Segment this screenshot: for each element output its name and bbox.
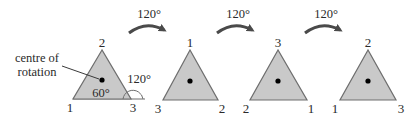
curved-arrow-icon [217,26,252,33]
triangle-1: 2 1 3 60° 120° centre of rotation [15,35,151,115]
vertex-label-top: 2 [99,35,106,50]
arrow-label: 120° [137,7,161,21]
centre-label-line2: rotation [18,65,58,79]
arrow-label: 120° [314,7,338,21]
rotation-arrow-3: 120° [305,7,340,33]
interior-angle-label: 60° [92,86,110,100]
triangle-2: 1 3 2 [155,35,226,116]
triangle-shape [163,50,218,100]
vertex-label-top: 2 [365,35,372,50]
triangle-3: 3 2 1 [243,35,315,116]
triangle-shape [340,50,396,100]
vertex-label-bottom-left: 3 [155,101,162,116]
arrow-label: 120° [226,7,250,21]
centre-label-line1: centre of [15,51,60,65]
vertex-label-bottom-right: 3 [398,101,405,116]
exterior-angle-label: 120° [127,72,151,86]
vertex-label-bottom-right: 1 [308,101,315,116]
vertex-label-bottom-left: 1 [332,101,339,116]
centre-dot [275,78,280,83]
centre-dot [365,78,370,83]
vertex-label-top: 1 [187,35,194,50]
centre-dot [187,78,192,83]
triangle-4: 2 1 3 [332,35,405,116]
vertex-label-top: 3 [275,35,282,50]
vertex-label-bottom-right: 3 [130,100,137,115]
curved-arrow-icon [129,26,164,33]
rotation-arrow-2: 120° [217,7,252,33]
centre-dot [99,77,104,82]
rotation-diagram: 2 1 3 60° 120° centre of rotation 120° 1… [0,0,411,124]
vertex-label-bottom-left: 2 [243,101,250,116]
curved-arrow-icon [305,26,340,33]
triangle-shape [250,50,307,100]
rotation-arrow-1: 120° [129,7,164,33]
vertex-label-bottom-left: 1 [67,100,74,115]
vertex-label-bottom-right: 2 [219,101,226,116]
